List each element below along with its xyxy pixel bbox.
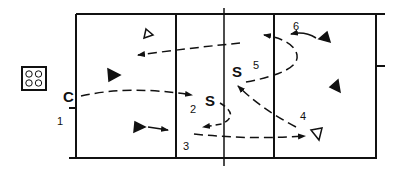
pass-path-3 [194, 134, 305, 138]
setter-front-label: S [232, 63, 242, 80]
label-3: 3 [183, 140, 189, 152]
path-6 [291, 33, 316, 38]
drill-diagram: C 1 2 3 4 5 6 S S [0, 0, 401, 173]
open-triangle-player-icon [311, 128, 322, 140]
filled-triangle-player-icon [108, 69, 120, 81]
setter-back-label: S [205, 92, 215, 109]
ball-cart-icon [22, 67, 46, 90]
approach-arrow [148, 127, 168, 130]
label-4: 4 [300, 110, 306, 122]
filled-triangle-player-icon [319, 32, 330, 42]
coach-label: C [63, 88, 74, 105]
label-2: 2 [190, 103, 196, 115]
label-5: 5 [253, 59, 259, 71]
open-triangle-player-icon [144, 29, 153, 38]
label-1: 1 [57, 115, 63, 127]
path-4 [238, 86, 296, 127]
label-6: 6 [293, 20, 299, 32]
filled-triangle-player-icon [134, 122, 145, 132]
movement-paths [81, 33, 316, 138]
filled-triangle-player-icon [330, 80, 340, 92]
